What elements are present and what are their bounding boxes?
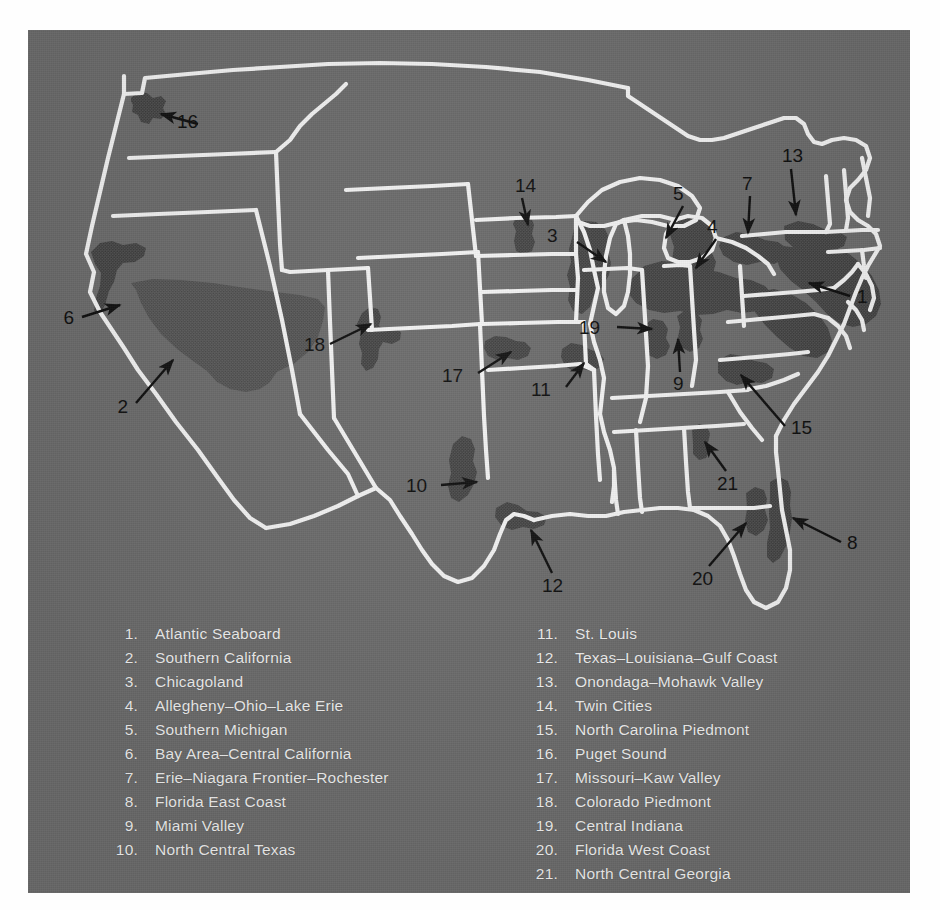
callout-number-20: 20 (692, 568, 713, 589)
urban-region-6 (91, 241, 146, 315)
legend-item-number: 19. (524, 814, 558, 838)
legend-item-label: Erie–Niagara Frontier–Rochester (155, 766, 389, 790)
legend-item: 18.Colorado Piedmont (524, 790, 904, 814)
legend-item-label: Missouri–Kaw Valley (575, 766, 721, 790)
urban-region-16 (131, 92, 166, 124)
legend-item-number: 1. (104, 622, 138, 646)
callout-number-12: 12 (542, 575, 563, 596)
border-wa-or (129, 152, 276, 158)
urban-regions-layer (91, 92, 881, 563)
legend-item-number: 20. (524, 838, 558, 862)
border-la-ms (614, 470, 618, 514)
us-map-svg: 16 6 2 18 14 3 5 7 13 4 1 19 9 17 11 15 … (28, 30, 910, 650)
border-id-wa-or (276, 152, 282, 270)
legend-item-label: Southern Michigan (155, 718, 288, 742)
callout-number-16: 16 (177, 111, 198, 132)
border-mi-wi (624, 216, 676, 220)
border-id-mt (276, 84, 346, 152)
legend-item-label: Twin Cities (575, 694, 652, 718)
legend-item: 3.Chicagoland (104, 670, 516, 694)
border-ne-ks (482, 290, 576, 292)
leader-12 (531, 530, 552, 573)
border-sc-ga (728, 392, 762, 440)
leader-9 (678, 339, 680, 372)
legend-item-label: Chicagoland (155, 670, 243, 694)
legend-item-label: St. Louis (575, 622, 637, 646)
callout-number-19: 19 (579, 317, 600, 338)
border-ks-ok (482, 322, 584, 324)
border-tn-ms-al-ga (614, 424, 744, 432)
legend-item-number: 8. (104, 790, 138, 814)
border-ma-north (826, 230, 878, 232)
legend-item: 5.Southern Michigan (104, 718, 516, 742)
callout-number-15: 15 (791, 417, 812, 438)
callout-number-13: 13 (782, 145, 803, 166)
legend-item-label: Southern California (155, 646, 292, 670)
legend-item-label: Central Indiana (575, 814, 683, 838)
urban-region-9 (677, 310, 703, 352)
legend-item-number: 18. (524, 790, 558, 814)
leader-21 (705, 442, 726, 471)
border-mi-oh-in (664, 265, 690, 266)
legend-column-right: 11.St. Louis12.Texas–Louisiana–Gulf Coas… (524, 622, 904, 892)
border-ga-fl (690, 506, 770, 508)
legend-item-label: Texas–Louisiana–Gulf Coast (575, 646, 778, 670)
border-al-ga (684, 428, 690, 508)
callout-number-8: 8 (847, 532, 858, 553)
legend-item: 20.Florida West Coast (524, 838, 904, 862)
legend-item-label: Florida East Coast (155, 790, 286, 814)
legend-item-number: 5. (104, 718, 138, 742)
border-co-nm (368, 324, 480, 330)
urban-region-20 (745, 487, 768, 536)
legend-item-label: Puget Sound (575, 742, 667, 766)
border-mt-wy (346, 184, 468, 190)
border-ar-la (594, 370, 600, 480)
callout-number-5: 5 (673, 183, 684, 204)
legend-item: 4.Allegheny–Ohio–Lake Erie (104, 694, 516, 718)
border-ny-vt-nh (826, 176, 830, 232)
callout-number-3: 3 (547, 225, 558, 246)
legend-item-number: 17. (524, 766, 558, 790)
urban-region-21 (692, 424, 710, 460)
callout-number-14: 14 (515, 175, 537, 196)
border-nv-ut (282, 268, 368, 272)
legend-item-number: 12. (524, 646, 558, 670)
border-west-coast (124, 63, 628, 94)
legend-item: 21.North Central Georgia (524, 862, 904, 886)
callout-number-6: 6 (63, 307, 74, 328)
legend-item-number: 3. (104, 670, 138, 694)
border-wy-co (358, 252, 478, 258)
legend-item-label: Onondaga–Mohawk Valley (575, 670, 764, 694)
callout-number-9: 9 (673, 373, 684, 394)
callout-number-21: 21 (717, 473, 738, 494)
legend-item-label: Miami Valley (155, 814, 244, 838)
border-vt-nh (844, 170, 848, 230)
callout-number-1: 1 (857, 286, 868, 307)
legend-item-number: 4. (104, 694, 138, 718)
legend-item: 14.Twin Cities (524, 694, 904, 718)
border-az-nm (334, 418, 376, 488)
legend-item-number: 2. (104, 646, 138, 670)
callout-number-2: 2 (117, 396, 128, 417)
legend-item: 8.Florida East Coast (104, 790, 516, 814)
border-or-ca (113, 210, 256, 216)
border-wi-il (584, 268, 642, 270)
legend-item-label: North Central Texas (155, 838, 296, 862)
map-panel: 16 6 2 18 14 3 5 7 13 4 1 19 9 17 11 15 … (28, 30, 910, 893)
figure-root: 16 6 2 18 14 3 5 7 13 4 1 19 9 17 11 15 … (0, 0, 940, 910)
border-mn-ia (576, 216, 578, 278)
legend-item: 16.Puget Sound (524, 742, 904, 766)
border-co-ks (478, 252, 482, 324)
legend-item-label: Florida West Coast (575, 838, 710, 862)
border-southwest (266, 488, 534, 582)
urban-region-17 (484, 336, 531, 360)
legend-item-label: North Central Georgia (575, 862, 731, 886)
legend-item-number: 15. (524, 718, 558, 742)
legend-item: 15.North Carolina Piedmont (524, 718, 904, 742)
callout-number-4: 4 (707, 216, 718, 237)
legend-item-label: Colorado Piedmont (575, 790, 711, 814)
callout-number-7: 7 (742, 173, 753, 194)
legend-item: 1.Atlantic Seaboard (104, 622, 516, 646)
legend-item-number: 14. (524, 694, 558, 718)
border-ca-az (300, 414, 358, 496)
